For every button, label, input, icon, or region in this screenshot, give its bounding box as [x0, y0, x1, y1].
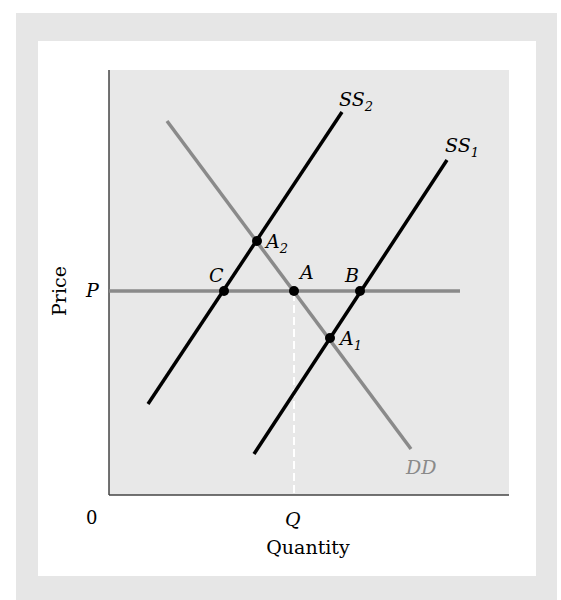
price-tick-label: P: [85, 279, 100, 301]
label-c: C: [209, 264, 224, 286]
point-b: [355, 286, 365, 296]
point-a2: [252, 236, 262, 246]
point-c: [219, 286, 229, 296]
label-dd: DD: [405, 456, 436, 478]
label-b: B: [344, 264, 359, 286]
y-axis-title: Price: [48, 266, 70, 316]
origin-label: 0: [86, 507, 97, 528]
label-a: A: [298, 261, 314, 283]
point-a: [289, 286, 299, 296]
quantity-tick-label: Q: [285, 508, 301, 530]
point-a1: [325, 333, 335, 343]
x-axis-title: Quantity: [266, 536, 350, 558]
supply-demand-diagram: SS2 SS1 DD A2 C A B A1 P 0 Q Quantity Pr…: [0, 0, 561, 600]
